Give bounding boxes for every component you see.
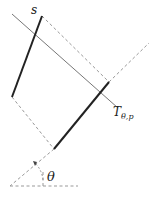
projection-line [12,14,118,108]
label-s: s [31,3,37,17]
projection-diagram [0,0,154,200]
label-angle: θ [47,169,55,184]
label-projection: Tθ,p [113,105,134,121]
label-projection-main: T [113,105,121,119]
label-projection-sub: θ,p [121,112,133,121]
segment-projection [54,82,109,149]
segment-s [12,16,42,97]
dashed-direction-upper [109,43,149,82]
dashed-bottom-edge [12,97,54,149]
angle-arc-icon [35,163,43,180]
